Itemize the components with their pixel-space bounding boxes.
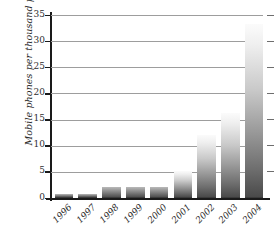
y-tick-mark	[45, 119, 51, 121]
y-tick-label-20: 20	[23, 87, 45, 97]
bar-slot-2003	[218, 15, 242, 198]
bar-series	[52, 15, 266, 198]
bar-2000	[150, 187, 169, 198]
x-tick-label-2004: 2004	[241, 202, 264, 225]
x-slot-2003: 2003	[218, 200, 242, 240]
x-slot-2001: 2001	[171, 200, 195, 240]
x-slot-2002: 2002	[195, 200, 219, 240]
x-tick-label-1996: 1996	[50, 202, 73, 225]
bar-1998	[102, 187, 121, 198]
y-tick-mark-right	[267, 41, 274, 42]
y-tick-label-25: 25	[23, 61, 45, 71]
bar-2004	[245, 24, 264, 198]
bar-slot-1997	[76, 15, 100, 198]
x-tick-label-1998: 1998	[98, 202, 121, 225]
plot-area: 35 30 25 20 15	[50, 15, 268, 198]
bar-slot-1996	[52, 15, 76, 198]
bar-1997	[78, 194, 97, 198]
y-tick-label-10: 10	[23, 139, 45, 149]
bar-slot-2001	[171, 15, 195, 198]
bar-2001	[174, 171, 193, 198]
x-tick-label-2000: 2000	[146, 202, 169, 225]
y-tick-mark	[45, 198, 51, 200]
y-tick-mark-right	[267, 119, 274, 120]
bar-slot-1998	[100, 15, 124, 198]
y-tick-mark-right	[267, 93, 274, 94]
x-slot-1997: 1997	[76, 200, 100, 240]
bar-2003	[221, 113, 240, 198]
x-slot-1999: 1999	[123, 200, 147, 240]
y-tick-label-30: 30	[23, 35, 45, 45]
y-tick-mark-right	[267, 171, 274, 172]
y-tick-mark-right	[267, 15, 274, 16]
y-tick-mark	[45, 93, 51, 95]
x-slot-2004: 2004	[242, 200, 266, 240]
bar-1996	[55, 194, 74, 198]
bar-slot-2000	[147, 15, 171, 198]
y-tick-label-35: 35	[23, 9, 45, 19]
x-tick-label-1997: 1997	[74, 202, 97, 225]
x-axis-tick-labels: 1996 1997 1998 1999 2000 2001 2002 2003 …	[52, 200, 266, 240]
x-tick-label-2003: 2003	[217, 202, 240, 225]
x-slot-1996: 1996	[52, 200, 76, 240]
bar-slot-2004	[242, 15, 266, 198]
y-tick-mark-right	[267, 145, 274, 146]
y-tick-mark	[45, 41, 51, 43]
y-tick-label-0: 0	[23, 192, 45, 202]
bar-2002	[197, 135, 216, 198]
y-tick-mark	[45, 171, 51, 173]
x-tick-label-1999: 1999	[122, 202, 145, 225]
x-slot-1998: 1998	[100, 200, 124, 240]
y-tick-mark	[45, 67, 51, 69]
gridline-rule	[51, 198, 263, 199]
bar-slot-1999	[123, 15, 147, 198]
x-tick-label-2001: 2001	[169, 202, 192, 225]
chart-figure: Mobile phones per thousand people 35 30 …	[0, 0, 279, 240]
y-tick-label-15: 15	[23, 113, 45, 123]
y-tick-mark	[45, 145, 51, 147]
x-tick-label-2002: 2002	[193, 202, 216, 225]
y-tick-mark-right	[267, 67, 274, 68]
x-slot-2000: 2000	[147, 200, 171, 240]
bar-slot-2002	[195, 15, 219, 198]
y-tick-mark	[45, 15, 51, 17]
y-axis-title: Mobile phones per thousand people	[23, 0, 34, 148]
bar-1999	[126, 187, 145, 198]
y-tick-label-5: 5	[23, 165, 45, 175]
